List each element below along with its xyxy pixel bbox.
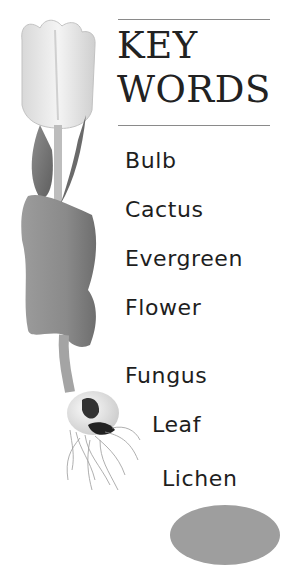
heading-line-1: KEY: [117, 24, 271, 68]
key-word-lichen: Lichen: [162, 466, 238, 491]
heading-rule-bottom: [118, 125, 270, 126]
key-word-evergreen: Evergreen: [125, 246, 243, 271]
key-word-bulb: Bulb: [125, 148, 177, 173]
heading-rule-top: [118, 19, 270, 20]
key-word-leaf: Leaf: [152, 412, 201, 437]
key-words-heading: KEY WORDS: [117, 24, 271, 112]
key-word-fungus: Fungus: [125, 363, 207, 388]
key-word-flower: Flower: [125, 295, 201, 320]
heading-line-2: WORDS: [117, 68, 271, 112]
decorative-gray-circle: [170, 505, 280, 565]
key-word-cactus: Cactus: [125, 197, 204, 222]
